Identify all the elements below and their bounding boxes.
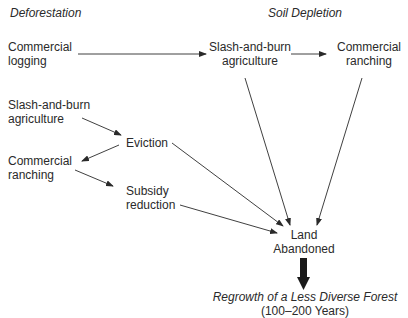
arrow-ranching-left-to-subsidy	[75, 170, 113, 186]
header-soil-depletion: Soil Depletion	[268, 6, 342, 20]
arrow-eviction-to-ranching-left	[82, 145, 119, 161]
node-slash-and-burn-left: Slash-and-burn agriculture	[8, 98, 90, 126]
arrow-eviction-to-land	[172, 143, 283, 226]
node-eviction: Eviction	[126, 136, 168, 150]
arrow-subsidy-to-land	[180, 205, 277, 233]
node-commercial-ranching-left: Commercial ranching	[8, 154, 72, 182]
node-regrowth-years: (100–200 Years)	[200, 304, 408, 318]
node-slash-and-burn-top: Slash-and-burn agriculture	[207, 40, 293, 68]
node-commercial-logging: Commercial logging	[8, 40, 72, 68]
node-commercial-ranching-top: Commercial ranching	[337, 40, 401, 68]
thick-arrow-to-regrowth	[297, 258, 310, 290]
arrow-ranching-to-land	[317, 78, 362, 225]
node-land-abandoned: Land Abandoned	[270, 228, 338, 256]
node-subsidy-reduction: Subsidy reduction	[126, 184, 175, 212]
node-regrowth: Regrowth of a Less Diverse Forest	[200, 290, 408, 304]
header-deforestation: Deforestation	[10, 6, 81, 20]
